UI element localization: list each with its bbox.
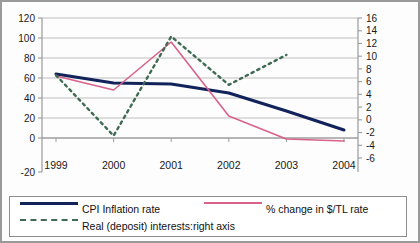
- x-axis-tick-label: 2000: [102, 159, 126, 171]
- left-axis-tick-label: 80: [24, 53, 36, 64]
- left-axis: -20020406080100120: [18, 13, 42, 178]
- left-axis-tick-label: 40: [24, 93, 36, 104]
- right-axis-tick-label: 12: [366, 38, 378, 49]
- right-axis-tick-label: 2: [366, 102, 372, 113]
- right-axis-tick-label: -6: [366, 153, 375, 164]
- left-axis-tick-label: -20: [21, 167, 36, 178]
- legend-swatch-dashed-line-icon: [20, 219, 78, 231]
- x-axis: 199920002001200220032004: [42, 138, 358, 171]
- legend-label: CPI Inflation rate: [82, 203, 160, 215]
- left-axis-tick-label: 60: [24, 73, 36, 84]
- left-axis-tick-label: 0: [29, 133, 35, 144]
- legend-item-cpi-inflation: CPI Inflation rate: [20, 201, 160, 217]
- x-axis-tick-label: 2001: [160, 159, 184, 171]
- right-axis-tick-label: -2: [366, 127, 375, 138]
- legend-swatch-pink-line-icon: [204, 202, 262, 214]
- right-axis-tick-label: 8: [366, 64, 372, 75]
- right-axis-tick-label: 0: [366, 114, 372, 125]
- right-axis: -6-4-20246810121416: [358, 13, 378, 172]
- legend-item-real-deposit-interests: Real (deposit) interests:right axis: [20, 218, 235, 234]
- x-axis-tick-label: 2003: [275, 159, 299, 171]
- series-line-3: [56, 36, 286, 135]
- right-axis-tick-label: 4: [366, 89, 372, 100]
- series-line-1: [56, 74, 344, 130]
- left-axis-tick-label: 20: [24, 113, 36, 124]
- chart-legend: CPI Inflation rate Real (deposit) intere…: [9, 196, 407, 237]
- line-chart-svg: -20020406080100120 -6-4-20246810121416 1…: [6, 6, 414, 192]
- series-line-2: [56, 42, 344, 141]
- legend-swatch-solid-line-icon: [20, 202, 78, 215]
- left-axis-tick-label: 100: [18, 33, 35, 44]
- chart-frame: -20020406080100120 -6-4-20246810121416 1…: [0, 0, 420, 243]
- right-axis-tick-label: 6: [366, 76, 372, 87]
- right-axis-tick-label: 14: [366, 25, 378, 36]
- left-axis-tick-label: 120: [18, 13, 35, 24]
- x-axis-tick-label: 1999: [44, 159, 68, 171]
- x-axis-tick-label: 2002: [217, 159, 241, 171]
- series-group: [56, 36, 344, 141]
- right-axis-tick-label: -4: [366, 140, 375, 151]
- legend-item-usd-try-change: % change in $/TL rate: [204, 201, 368, 217]
- x-axis-tick-label: 2004: [332, 159, 356, 171]
- plot-area: -20020406080100120 -6-4-20246810121416 1…: [6, 6, 414, 192]
- legend-label: % change in $/TL rate: [266, 203, 368, 215]
- legend-label: Real (deposit) interests:right axis: [82, 220, 235, 232]
- right-axis-tick-label: 16: [366, 13, 378, 24]
- right-axis-tick-label: 10: [366, 51, 378, 62]
